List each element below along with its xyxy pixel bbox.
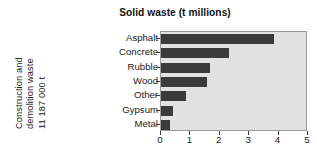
- bar-gypsum: [161, 106, 173, 116]
- category-label-gypsum: Gypsum: [66, 105, 158, 115]
- chart-title: Solid waste (t millions): [95, 7, 255, 18]
- y-axis-tick: [156, 95, 160, 96]
- bar-metal: [161, 120, 170, 130]
- y-axis-tick: [156, 124, 160, 125]
- bar-row: [161, 120, 308, 130]
- side-label-line-2: demolition waste: [25, 58, 35, 129]
- bar-row: [161, 34, 308, 44]
- bar-concrete: [161, 48, 229, 58]
- bar-row: [161, 91, 308, 101]
- x-axis-tick-label: 4: [269, 134, 287, 145]
- side-label-line-1: Construction and: [14, 57, 24, 129]
- y-axis-tick: [156, 38, 160, 39]
- category-label-wood: Wood: [66, 76, 158, 86]
- plot-area: [160, 31, 307, 131]
- bar-row: [161, 77, 308, 87]
- y-axis-tick: [156, 110, 160, 111]
- x-axis-tick-label: 0: [151, 134, 169, 145]
- x-axis-tick-label: 3: [239, 134, 257, 145]
- category-label-metal: Metal: [66, 119, 158, 129]
- x-axis-tick-label: 2: [210, 134, 228, 145]
- category-axis-labels: AsphaltConcreteRubbleWoodOtherGypsumMeta…: [60, 31, 158, 131]
- bar-row: [161, 63, 308, 73]
- y-axis-tick: [156, 81, 160, 82]
- bar-wood: [161, 77, 207, 87]
- bar-row: [161, 48, 308, 58]
- axis-group-label: Construction and demolition waste 11 187…: [0, 0, 46, 147]
- bar-rubble: [161, 63, 210, 73]
- x-axis-tick-label: 1: [180, 134, 198, 145]
- side-label-total-tonnes: 11 187 000 t: [37, 77, 47, 129]
- chart-figure: Construction and demolition waste 11 187…: [0, 0, 317, 147]
- category-label-asphalt: Asphalt: [66, 33, 158, 43]
- bar-row: [161, 106, 308, 116]
- bar-other: [161, 91, 186, 101]
- y-axis-tick: [156, 67, 160, 68]
- y-axis-tick: [156, 52, 160, 53]
- x-axis-tick-label: 5: [298, 134, 316, 145]
- category-label-rubble: Rubble: [66, 62, 158, 72]
- category-label-concrete: Concrete: [66, 47, 158, 57]
- category-label-other: Other: [66, 90, 158, 100]
- bar-asphalt: [161, 34, 274, 44]
